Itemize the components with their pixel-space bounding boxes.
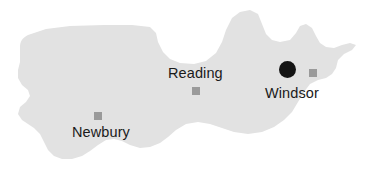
- city-label-windsor: Windsor: [265, 86, 319, 101]
- region-map-figure: Reading Newbury Windsor: [0, 0, 367, 176]
- windsor-highlight-dot-marker[interactable]: [279, 61, 296, 78]
- windsor-square-marker[interactable]: [309, 69, 317, 77]
- city-label-reading: Reading: [168, 66, 223, 81]
- reading-square-marker[interactable]: [192, 87, 200, 95]
- newbury-square-marker[interactable]: [94, 112, 102, 120]
- city-label-newbury: Newbury: [72, 125, 130, 140]
